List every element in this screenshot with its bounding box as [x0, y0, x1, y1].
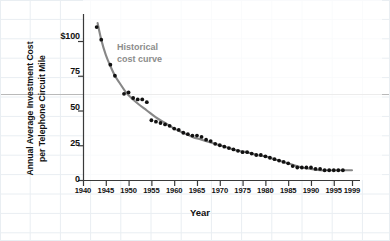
y-axis-title: Annual Average Investment Cost per Telep… — [25, 21, 48, 197]
x-tick-label-1999: 1999 — [336, 186, 368, 195]
x-axis-title: Year — [150, 207, 250, 218]
chart-figure: $100 75 50 25 0 194019451950195519601965… — [0, 0, 390, 241]
historical-cost-curve-annotation: Historical cost curve — [117, 42, 207, 65]
